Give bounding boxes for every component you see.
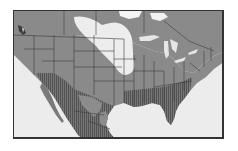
range-map [14,11,224,139]
map-frame [13,10,224,139]
